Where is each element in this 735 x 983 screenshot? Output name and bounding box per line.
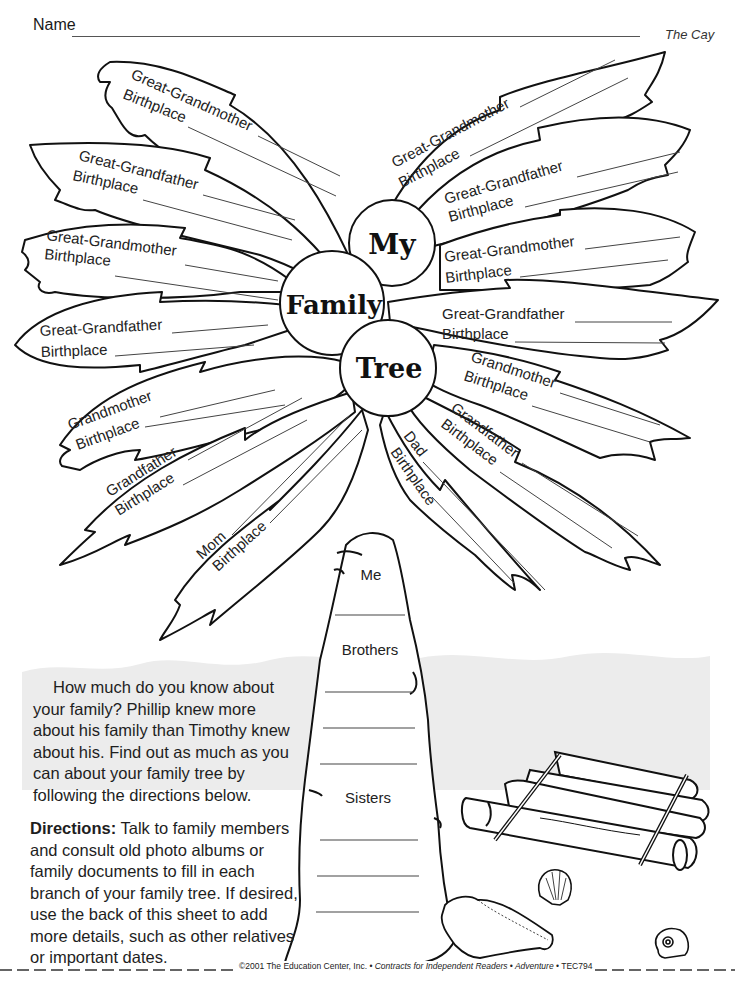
leaf-right-4-line1: Great-Grandfather xyxy=(442,305,565,322)
title-tree: Tree xyxy=(356,353,423,384)
intro-text: How much do you know about your family? … xyxy=(33,677,295,806)
leaf-left-4-line2: Birthplace xyxy=(41,341,108,360)
svg-text:Birthplace: Birthplace xyxy=(41,341,108,360)
trunk-label-sisters: Sisters xyxy=(345,789,391,806)
footer-copyright: ©2001 The Education Center, Inc. • Contr… xyxy=(237,961,594,971)
snail-shell xyxy=(656,929,689,958)
directions-paragraph: Directions: Talk to family members and c… xyxy=(30,818,300,969)
svg-text:Great-Grandfather: Great-Grandfather xyxy=(442,305,565,322)
intro-paragraph: How much do you know about your family? … xyxy=(33,677,295,806)
trunk-label-me: Me xyxy=(361,566,382,583)
svg-text:Birthplace: Birthplace xyxy=(442,325,509,342)
trunk xyxy=(285,533,455,963)
title-family: Family xyxy=(286,290,383,320)
directions-text: Talk to family members and consult old p… xyxy=(30,819,298,966)
leaf-right-4-line2: Birthplace xyxy=(442,325,509,342)
directions-label: Directions: xyxy=(30,819,116,837)
footer: ©2001 The Education Center, Inc. • Contr… xyxy=(0,958,735,978)
trunk-label-brothers: Brothers xyxy=(342,641,399,658)
title-my: My xyxy=(368,228,416,261)
